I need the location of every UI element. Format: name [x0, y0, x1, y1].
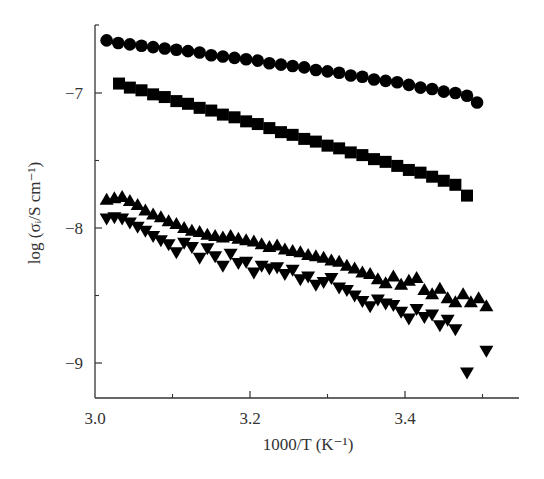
- circle-marker: [147, 41, 160, 54]
- triangle-up-marker: [410, 271, 424, 283]
- circle-marker: [275, 58, 288, 71]
- square-marker: [368, 153, 380, 165]
- circle-marker: [251, 54, 264, 67]
- y-tick-label: −8: [65, 219, 83, 238]
- circle-marker: [158, 42, 171, 55]
- triangle-up-marker: [386, 270, 400, 282]
- triangle-down-marker: [448, 324, 462, 336]
- circle-marker: [205, 49, 218, 62]
- triangle-down-marker: [433, 320, 447, 332]
- square-marker: [170, 95, 182, 107]
- circle-marker: [135, 39, 148, 52]
- triangle-up-marker: [472, 291, 486, 303]
- circle-marker: [286, 60, 299, 73]
- y-tick-label: −7: [65, 84, 84, 103]
- y-tick-label: −9: [65, 354, 83, 373]
- square-marker: [205, 105, 217, 117]
- square-marker: [322, 140, 334, 152]
- triangle-down-marker: [193, 253, 207, 265]
- circle-marker: [368, 73, 381, 86]
- circle-marker: [228, 52, 241, 65]
- triangle-down-marker: [185, 242, 199, 254]
- circle-marker: [344, 69, 357, 82]
- square-marker: [147, 88, 159, 100]
- triangle-down-marker: [216, 261, 230, 273]
- square-marker: [182, 98, 194, 110]
- circle-marker: [263, 57, 276, 70]
- square-marker: [333, 142, 345, 154]
- circle-marker: [471, 96, 484, 109]
- square-marker: [426, 171, 438, 183]
- square-marker: [159, 91, 171, 103]
- triangle-down-marker: [479, 346, 493, 358]
- circle-marker: [112, 37, 125, 50]
- square-marker: [240, 115, 252, 127]
- square-marker: [229, 111, 241, 123]
- square-marker: [461, 190, 473, 202]
- square-marker: [252, 118, 264, 130]
- circle-marker: [298, 61, 311, 74]
- circle-marker: [124, 38, 137, 51]
- series-squares: [113, 78, 473, 202]
- square-marker: [194, 102, 206, 114]
- square-marker: [438, 175, 450, 187]
- chart-figure: −7−8−93.03.23.4 1000/T (K⁻¹) log (σᵢ/S c…: [0, 0, 544, 479]
- square-marker: [356, 149, 368, 161]
- y-axis-title: log (σᵢ/S cm⁻¹): [25, 162, 44, 265]
- circle-marker: [449, 87, 462, 100]
- square-marker: [263, 122, 275, 134]
- square-marker: [217, 109, 229, 121]
- square-marker: [391, 160, 403, 172]
- x-axis-title: 1000/T (K⁻¹): [263, 435, 354, 454]
- x-tick-label: 3.4: [394, 409, 416, 428]
- square-marker: [298, 133, 310, 145]
- triangle-down-marker: [460, 367, 474, 379]
- circle-marker: [321, 65, 334, 78]
- square-marker: [449, 179, 461, 191]
- circle-marker: [403, 79, 416, 92]
- square-marker: [287, 129, 299, 141]
- circle-marker: [391, 76, 404, 89]
- square-marker: [113, 78, 125, 90]
- circle-marker: [379, 75, 392, 88]
- square-marker: [136, 84, 148, 96]
- circle-marker: [240, 53, 253, 66]
- circle-marker: [437, 85, 450, 98]
- triangle-down-marker: [247, 268, 261, 280]
- circle-marker: [426, 83, 439, 96]
- square-marker: [345, 146, 357, 158]
- circle-marker: [333, 66, 346, 79]
- square-marker: [380, 156, 392, 168]
- circle-marker: [182, 45, 195, 58]
- triangle-down-marker: [169, 247, 183, 259]
- triangle-up-marker: [456, 287, 470, 299]
- square-marker: [124, 82, 136, 94]
- square-marker: [310, 136, 322, 148]
- data-series: [100, 34, 494, 379]
- square-marker: [275, 126, 287, 138]
- series-up-triangles: [100, 190, 494, 311]
- x-tick-label: 3.2: [239, 409, 260, 428]
- circle-marker: [356, 71, 369, 84]
- circle-marker: [100, 34, 113, 47]
- x-tick-label: 3.0: [84, 409, 105, 428]
- square-marker: [403, 164, 415, 176]
- circle-marker: [414, 81, 427, 94]
- triangle-up-marker: [433, 282, 447, 294]
- triangle-down-marker: [363, 301, 377, 313]
- circle-marker: [193, 46, 206, 59]
- circle-marker: [217, 50, 230, 63]
- square-marker: [415, 167, 427, 179]
- circle-marker: [170, 44, 183, 57]
- triangle-down-marker: [402, 313, 416, 325]
- circle-marker: [310, 64, 323, 77]
